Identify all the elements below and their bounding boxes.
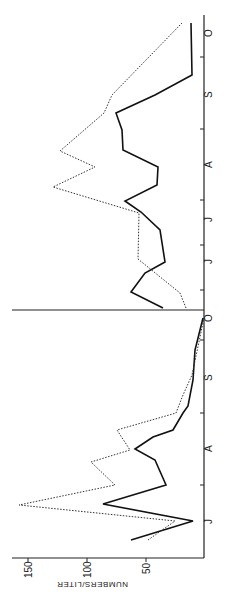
svg-text:J: J xyxy=(203,519,214,524)
svg-text:S: S xyxy=(203,374,214,381)
svg-text:50: 50 xyxy=(141,562,152,574)
lower-dotted-series xyxy=(19,318,204,540)
svg-text:J: J xyxy=(203,217,214,222)
rotated-line-chart: J J A S O J A S O 150 100 50 NUMBERS/LIT… xyxy=(0,0,226,604)
svg-text:A: A xyxy=(203,161,214,168)
lower-month-labels: J A S O xyxy=(203,314,214,524)
y-axis-label: NUMBERS/LITER xyxy=(57,580,128,589)
lower-solid-series xyxy=(103,318,203,540)
svg-text:O: O xyxy=(203,314,214,322)
y-tick-labels: 150 100 50 xyxy=(23,561,152,578)
svg-text:O: O xyxy=(203,29,214,37)
upper-solid-series xyxy=(116,23,192,308)
svg-text:A: A xyxy=(203,445,214,452)
svg-text:100: 100 xyxy=(82,561,93,578)
svg-text:150: 150 xyxy=(23,561,34,578)
upper-month-labels: J J A S O xyxy=(203,29,214,264)
upper-dotted-series xyxy=(53,23,186,308)
svg-text:S: S xyxy=(203,91,214,98)
svg-text:J: J xyxy=(203,259,214,264)
